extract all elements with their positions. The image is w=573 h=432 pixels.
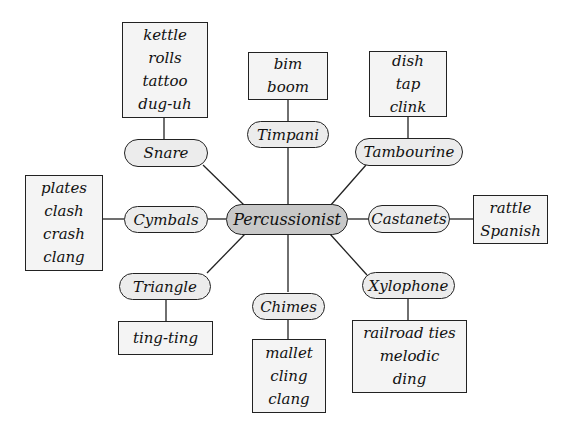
word: ding <box>393 368 427 391</box>
instrument-node-chimes: Chimes <box>252 293 325 320</box>
instrument-node-triangle: Triangle <box>119 273 211 300</box>
word-box-tambourine: dish tap clink <box>369 51 447 117</box>
instrument-node-timpani: Timpani <box>247 121 329 148</box>
word: dug-uh <box>138 93 191 116</box>
word-box-chimes: mallet cling clang <box>252 339 326 413</box>
word: tattoo <box>142 70 187 93</box>
word: Spanish <box>480 220 541 243</box>
word: ting-ting <box>133 327 198 350</box>
word: crash <box>43 223 85 246</box>
instrument-node-snare: Snare <box>124 139 208 167</box>
word: mallet <box>265 342 313 365</box>
word: melodic <box>380 345 440 368</box>
word: bim <box>274 53 303 76</box>
word: kettle <box>143 24 187 47</box>
word-box-timpani: bim boom <box>248 52 328 100</box>
word: tap <box>396 73 421 96</box>
word: railroad ties <box>363 322 456 345</box>
word: clink <box>390 96 427 119</box>
instrument-node-cymbals: Cymbals <box>124 206 208 233</box>
word: dish <box>392 50 424 73</box>
center-node-percussionist: Percussionist <box>226 204 348 235</box>
word: rolls <box>148 47 182 70</box>
word-box-snare: kettle rolls tattoo dug-uh <box>122 22 208 118</box>
word-box-triangle: ting-ting <box>118 321 213 355</box>
word: rattle <box>490 197 532 220</box>
word: boom <box>267 76 309 99</box>
instrument-node-castanets: Castanets <box>368 205 450 233</box>
word-web-diagram: Percussionist Snare kettle rolls tattoo … <box>0 0 573 432</box>
word-box-castanets: rattle Spanish <box>473 195 548 244</box>
word: clash <box>44 200 84 223</box>
word: clang <box>43 246 84 269</box>
word: cling <box>270 365 307 388</box>
word: clang <box>268 388 309 411</box>
instrument-node-tambourine: Tambourine <box>355 138 463 166</box>
word-box-xylophone: railroad ties melodic ding <box>352 320 467 393</box>
instrument-node-xylophone: Xylophone <box>362 272 455 299</box>
word-box-cymbals: plates clash crash clang <box>25 175 103 271</box>
word: plates <box>41 177 87 200</box>
